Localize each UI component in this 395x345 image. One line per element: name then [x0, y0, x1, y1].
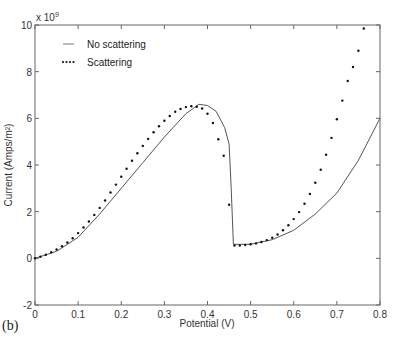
- x-tick-label: 0.8: [373, 309, 387, 320]
- x-tick-label: 0: [32, 309, 38, 320]
- y-tick-label: -2: [23, 300, 32, 311]
- y-axis-ticks: -20246810: [21, 20, 380, 311]
- x-tick-label: 0.1: [71, 309, 85, 320]
- y-tick-label: 2: [26, 207, 32, 218]
- y-axis-label: Current (Amps/m²): [3, 124, 14, 207]
- x-tick-label: 0.5: [244, 309, 258, 320]
- x-axis-ticks: 00.10.20.30.40.50.60.70.8: [32, 25, 387, 320]
- x-tick-label: 0.3: [157, 309, 171, 320]
- y-tick-label: 10: [21, 20, 33, 31]
- y-tick-label: 4: [26, 160, 32, 171]
- x-tick-label: 0.2: [114, 309, 128, 320]
- no-scattering-line: [35, 104, 380, 258]
- y-axis-multiplier: x 109: [36, 11, 59, 23]
- panel-label: (b): [2, 318, 18, 334]
- y-tick-label: 6: [26, 113, 32, 124]
- legend: No scattering Scattering: [62, 39, 146, 68]
- x-axis-label: Potential (V): [179, 318, 234, 329]
- chart-canvas: 00.10.20.30.40.50.60.70.8 -20246810 Pote…: [0, 0, 395, 345]
- x-tick-label: 0.6: [287, 309, 301, 320]
- legend-dotted-swatch: [62, 61, 75, 63]
- x-tick-label: 0.7: [330, 309, 344, 320]
- legend-label-scattering: Scattering: [87, 57, 132, 68]
- legend-label-no-scattering: No scattering: [87, 39, 146, 50]
- y-tick-label: 0: [26, 253, 32, 264]
- scattering-dots: [34, 27, 365, 259]
- y-tick-label: 8: [26, 67, 32, 78]
